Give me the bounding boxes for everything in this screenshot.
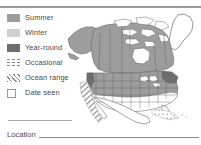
legend-item-label: Date seen (25, 89, 60, 97)
date-seen-checkbox[interactable] (7, 89, 16, 98)
ocean-range-swatch (7, 74, 20, 82)
occasional-swatch (7, 59, 20, 67)
year-round-swatch (7, 44, 20, 52)
legend-item-label: Summer (25, 14, 54, 22)
location-field[interactable]: Location (7, 130, 199, 139)
occasional-range-southeast (152, 109, 178, 120)
legend-item-label: Ocean range (25, 74, 69, 82)
location-label: Location (7, 130, 36, 139)
aleutian-tail (68, 53, 79, 60)
north-america-range-map (66, 9, 201, 127)
legend-bottom-divider (8, 120, 72, 121)
legend-item-label: Year-round (25, 44, 62, 52)
summer-swatch (7, 14, 20, 22)
top-divider (0, 6, 201, 8)
range-map-card: Summer Winter Year-round Occasional Ocea… (0, 0, 201, 145)
location-write-in-line[interactable] (39, 137, 199, 138)
map-landmasses (68, 14, 193, 124)
winter-swatch (7, 29, 20, 37)
greenland-outline (169, 14, 193, 50)
legend-item-label: Winter (25, 29, 47, 37)
legend-item-label: Occasional (25, 59, 63, 67)
